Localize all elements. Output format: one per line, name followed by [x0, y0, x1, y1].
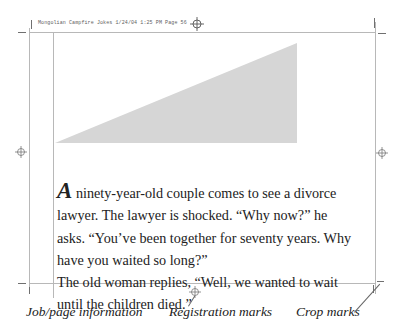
- story-line-3: asks. “You’ve been together for seventy …: [57, 227, 373, 249]
- crop-mark-top-left-h: [18, 32, 26, 33]
- left-margin-line: [53, 32, 54, 298]
- registration-mark-left-icon: [15, 146, 27, 158]
- crop-mark-top-right-h: [378, 33, 386, 34]
- story-text: A ninety-year-old couple comes to see a …: [57, 182, 373, 316]
- caption-job-page-information: Job/page information: [26, 304, 143, 320]
- story-line-2: lawyer. The lawyer is shocked. “Why now?…: [57, 204, 373, 226]
- caption-registration-marks: Registration marks: [169, 304, 272, 320]
- crop-mark-top-left-v: [31, 20, 32, 29]
- crop-mark-top-right-v: [374, 18, 375, 28]
- story-line-1: A ninety-year-old couple comes to see a …: [57, 182, 373, 204]
- drop-cap: A: [57, 178, 72, 203]
- story-line-5: The old woman replies, “Well, we wanted …: [57, 271, 373, 293]
- crop-mark-bottom-left-v: [29, 287, 30, 294]
- story-line-4: have you waited so long?”: [57, 249, 373, 271]
- crop-mark-bottom-right-h: [377, 281, 384, 282]
- top-trim-line: [29, 32, 376, 33]
- triangle-artwork: [55, 40, 300, 145]
- job-page-slug: Mongolian Campfire Jokes 1/24/04 1:25 PM…: [38, 20, 187, 26]
- left-bleed-line: [29, 28, 30, 294]
- crop-mark-bottom-left-h: [18, 283, 26, 284]
- registration-mark-top-icon: [190, 17, 204, 31]
- caption-crop-marks: Crop marks: [296, 304, 360, 320]
- registration-mark-right-icon: [376, 147, 388, 159]
